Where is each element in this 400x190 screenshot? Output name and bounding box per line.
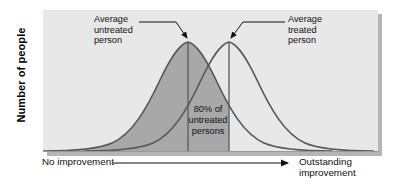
region-label-line-1: 80% of <box>166 104 250 115</box>
callout-average-treated-person: Average treated person <box>288 14 322 46</box>
shaded-region-label: 80% of untreated persons <box>166 104 250 137</box>
callout-untreated-line-2: untreated <box>94 25 133 36</box>
callout-untreated-line-3: person <box>94 35 133 46</box>
region-label-line-2: untreated <box>166 115 250 126</box>
callout-treated-line-2: treated <box>288 25 322 36</box>
axis-label-outstanding-improvement: Outstanding improvement <box>299 156 356 179</box>
distribution-figure: Number of people Average untreated perso… <box>0 0 400 190</box>
region-label-line-3: persons <box>166 126 250 137</box>
y-axis-title: Number of people <box>15 10 27 140</box>
axis-label-right-line-2: improvement <box>299 167 356 178</box>
callout-average-untreated-person: Average untreated person <box>94 14 133 46</box>
callout-untreated-line-1: Average <box>94 14 133 25</box>
callout-treated-line-1: Average <box>288 14 322 25</box>
axis-label-right-line-1: Outstanding <box>299 156 356 167</box>
callout-treated-line-3: person <box>288 35 322 46</box>
axis-label-no-improvement: No improvement <box>42 156 114 167</box>
